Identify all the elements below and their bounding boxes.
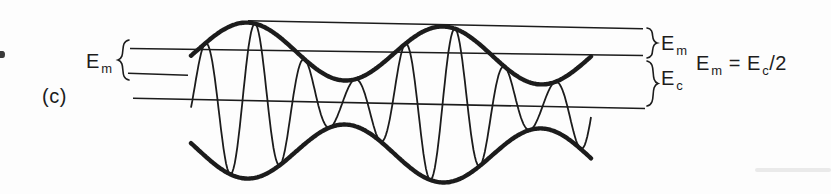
em-right-sub: m xyxy=(676,43,687,58)
ec-right-sub: c xyxy=(676,78,683,93)
carrier-peak-line xyxy=(130,49,643,56)
scan-smudge xyxy=(755,168,831,172)
modulation-equation: Em=Ec/2 xyxy=(696,52,787,82)
am-diagram-canvas: (c) Em Em Ec Em=Ec/2 xyxy=(0,0,831,194)
scan-speck xyxy=(0,51,5,58)
equation-lhs-base: E xyxy=(696,52,710,74)
envelope-min-line xyxy=(128,73,188,75)
ec-right-label: Ec xyxy=(661,67,683,97)
equation-equals: = xyxy=(729,52,741,74)
ec-right-base: E xyxy=(661,67,675,89)
em-right-base: E xyxy=(661,32,675,54)
em-left-sub: m xyxy=(101,61,112,76)
lower-envelope-curve xyxy=(191,125,591,183)
em-left-label: Em xyxy=(86,50,113,80)
am-wave-figure xyxy=(0,0,831,194)
em-right-label: Em xyxy=(661,32,688,62)
em-right-brace xyxy=(647,28,657,58)
em-left-brace xyxy=(118,40,129,80)
figure-label: (c) xyxy=(42,85,67,108)
equation-rhs-suffix: /2 xyxy=(769,52,787,74)
em-left-base: E xyxy=(86,50,100,72)
ec-right-brace xyxy=(647,61,658,106)
equation-lhs-sub: m xyxy=(711,63,722,78)
equation-rhs-base: E xyxy=(747,52,761,74)
carrier-wave-curve xyxy=(191,24,591,180)
reference-lines-group xyxy=(128,21,645,109)
